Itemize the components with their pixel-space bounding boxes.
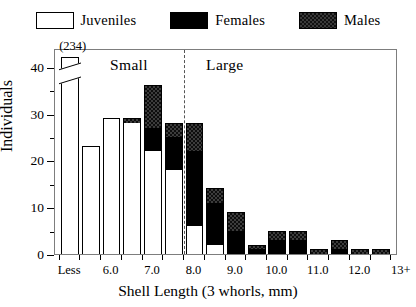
x-tick-1 <box>79 255 80 260</box>
bar-segment-females <box>144 128 162 151</box>
bar-segment-females <box>289 240 307 254</box>
y-tick-label-40: 40 <box>31 60 45 76</box>
bar-segment-males <box>289 231 307 240</box>
group-label-small: Small <box>110 56 148 74</box>
legend-item-males: Males <box>299 12 380 29</box>
bar-segment-males <box>165 123 183 137</box>
x-tick-label-13: 13+ <box>391 263 411 278</box>
x-tick-3 <box>121 255 122 260</box>
bar-segment-juveniles <box>123 123 141 254</box>
x-tick-label-Less: Less <box>58 263 81 278</box>
y-axis-title: Individuals <box>0 80 16 152</box>
bar-segment-juveniles <box>144 151 162 254</box>
x-tick-4 <box>142 255 143 260</box>
y-tick-label-20: 20 <box>31 153 45 169</box>
bar-Less <box>61 57 79 254</box>
bar-segment-females <box>331 249 349 254</box>
y-tick-40 <box>47 68 54 69</box>
bar-95 <box>227 212 245 254</box>
y-tick-label-0: 0 <box>37 247 44 263</box>
y-tick-label-10: 10 <box>31 200 45 216</box>
x-tick-7 <box>204 255 205 260</box>
bar-segment-juveniles <box>61 57 79 254</box>
bar-segment-females <box>206 203 224 245</box>
y-tick-minor-25 <box>50 138 55 139</box>
bar-segment-males <box>227 212 245 231</box>
bar-segment-females <box>248 249 266 254</box>
x-tick-label-120: 12.0 <box>348 263 370 278</box>
bar-segment-females <box>165 137 183 170</box>
bar-segment-juveniles <box>82 146 100 254</box>
x-tick-label-90: 9.0 <box>227 263 243 278</box>
chart-legend: Juveniles Females Males <box>0 6 416 34</box>
bar-125 <box>351 249 369 254</box>
y-tick-minor-5 <box>50 232 55 233</box>
bar-segment-males <box>331 240 349 249</box>
bar-segment-males <box>372 249 390 254</box>
bar-segment-males <box>310 249 328 254</box>
size-class-divider <box>184 50 185 254</box>
plot-area: Small Large (234) <box>54 49 397 255</box>
bar-segment-males <box>186 123 204 151</box>
x-tick-8 <box>225 255 226 260</box>
x-tick-5 <box>162 255 163 260</box>
y-tick-minor-15 <box>50 185 55 186</box>
bar-segment-males <box>268 231 286 240</box>
group-label-large: Large <box>206 56 243 74</box>
broken-bar-value-label: (234) <box>59 39 86 54</box>
bar-120 <box>331 240 349 254</box>
bar-segment-males <box>351 249 369 254</box>
bar-80 <box>165 123 183 254</box>
x-tick-label-60: 6.0 <box>103 263 119 278</box>
bar-75 <box>144 85 162 254</box>
legend-label-juveniles: Juveniles <box>81 12 137 29</box>
x-tick-11 <box>287 255 288 260</box>
bar-13 <box>372 249 390 254</box>
x-tick-2 <box>100 255 101 260</box>
x-tick-12 <box>307 255 308 260</box>
x-tick-9 <box>245 255 246 260</box>
x-tick-label-80: 8.0 <box>186 263 202 278</box>
x-tick-13 <box>328 255 329 260</box>
legend-label-females: Females <box>215 12 265 29</box>
bar-segment-juveniles <box>165 170 183 254</box>
legend-item-females: Females <box>170 12 265 29</box>
bar-segment-juveniles <box>103 118 121 254</box>
bar-segment-females <box>227 231 245 254</box>
x-tick-label-70: 7.0 <box>144 263 160 278</box>
bar-65 <box>103 118 121 254</box>
legend-label-males: Males <box>344 12 380 29</box>
legend-item-juveniles: Juveniles <box>36 12 137 29</box>
x-tick-label-100: 10.0 <box>265 263 287 278</box>
y-tick-0 <box>47 255 54 256</box>
bar-90 <box>206 188 224 254</box>
bar-segment-males <box>206 188 224 202</box>
x-axis: Less6.07.08.09.010.011.012.013+ <box>54 255 397 257</box>
x-tick-16 <box>390 255 391 260</box>
y-tick-minor-35 <box>50 91 55 92</box>
y-tick-20 <box>47 161 54 162</box>
legend-swatch-females <box>170 12 208 29</box>
x-tick-label-110: 11.0 <box>307 263 328 278</box>
bar-110 <box>289 231 307 254</box>
y-tick-10 <box>47 208 54 209</box>
bar-105 <box>268 231 286 254</box>
y-tick-30 <box>47 115 54 116</box>
bar-segment-females <box>268 240 286 254</box>
y-tick-label-30: 30 <box>31 107 45 123</box>
bar-70 <box>123 118 141 254</box>
bar-segment-males <box>144 85 162 127</box>
legend-swatch-males <box>299 12 337 29</box>
x-tick-10 <box>266 255 267 260</box>
x-tick-6 <box>183 255 184 260</box>
bar-60 <box>82 146 100 254</box>
bar-segment-juveniles <box>206 245 224 254</box>
x-tick-0 <box>59 255 60 260</box>
bar-segment-juveniles <box>186 226 204 254</box>
bar-115 <box>310 249 328 254</box>
bar-85 <box>186 123 204 254</box>
legend-swatch-juveniles <box>36 12 74 29</box>
x-tick-15 <box>370 255 371 260</box>
bar-segment-females <box>186 151 204 226</box>
x-tick-14 <box>349 255 350 260</box>
